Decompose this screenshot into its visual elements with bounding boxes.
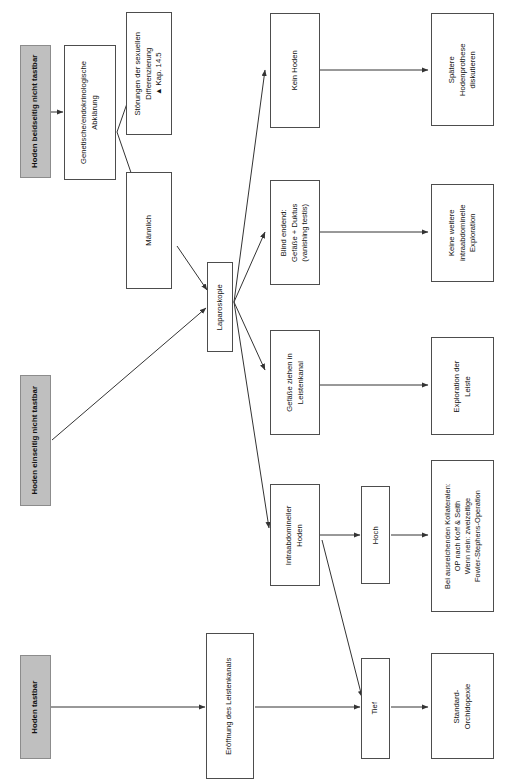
edge-n4-n5: [234, 70, 265, 302]
node-label: Bei ausreichenden Kollateralen: OP nach …: [443, 483, 483, 589]
node-genetische-endokrinologische-abklaerung[interactable]: Genetische/endokrinologische Abklärung: [64, 45, 116, 180]
node-label: Störungen der sexuellen Differenzierung …: [133, 32, 165, 115]
node-gefaesse-ziehen-in-leistenkanal[interactable]: Gefäße ziehen in Leistenkanal: [270, 330, 320, 435]
node-label: Kein Hoden: [290, 50, 301, 90]
entry-node-hoden-tastbar[interactable]: Hoden tastbar: [20, 655, 51, 759]
node-exploration-der-leiste[interactable]: Exploration der Leiste: [431, 337, 494, 435]
edge-e2-n4: [52, 308, 206, 440]
node-maennlich[interactable]: Männlich: [126, 172, 172, 289]
node-label: Männlich: [144, 215, 155, 246]
node-keine-weitere-intraabdominelle-exploration[interactable]: Keine weitere intraabdominelle Explorati…: [431, 184, 494, 282]
node-label: Exploration der Leiste: [452, 360, 473, 412]
node-laparoskopie[interactable]: Laparoskopie: [207, 262, 233, 352]
node-label: Blind endend: Gefäße + Duktus (vanishing…: [279, 203, 311, 261]
node-koff-seith-fowler-stephens[interactable]: Bei ausreichenden Kollateralen: OP nach …: [431, 460, 494, 612]
entry-node-hoden-beidseitig-nicht-tastbar[interactable]: Hoden beidseitig nicht tastbar: [20, 45, 51, 178]
node-eroeffnung-des-leistenkanals[interactable]: Eröffnung des Leistenkanals: [206, 633, 254, 779]
edge-n4-n7: [234, 302, 265, 370]
entry-node-label: Hoden einseitig nicht tastbar: [30, 386, 41, 494]
edge-n3-n4: [177, 246, 207, 290]
node-label: Standard- Orchidopexie: [452, 683, 473, 728]
entry-node-label: Hoden beidseitig nicht tastbar: [30, 55, 41, 168]
node-spaetere-hodenprothese-diskutieren[interactable]: Spätere Hodenprothese diskutieren: [431, 13, 494, 126]
edge-n4-n6: [234, 232, 265, 302]
node-label: Keine weitere intraabdominelle Explorati…: [447, 205, 479, 262]
node-standard-orchidopexie[interactable]: Standard- Orchidopexie: [431, 653, 494, 759]
node-stoerungen-der-sexuellen-differenzierung[interactable]: Störungen der sexuellen Differenzierung …: [126, 12, 172, 135]
flowchart-canvas: Hoden beidseitig nicht tastbar Hoden ein…: [0, 0, 511, 779]
entry-node-hoden-einseitig-nicht-tastbar[interactable]: Hoden einseitig nicht tastbar: [20, 375, 51, 506]
node-label: Tief: [370, 702, 381, 715]
node-label: Intraabdomineller Hoden: [285, 505, 306, 565]
node-label: Genetische/endokrinologische Abklärung: [80, 61, 101, 164]
node-label: Spätere Hodenprothese diskutieren: [447, 43, 479, 96]
node-intraabdomineller-hoden[interactable]: Intraabdomineller Hoden: [270, 484, 320, 586]
node-tief[interactable]: Tief: [361, 658, 390, 759]
edge-n8-n10: [322, 540, 362, 697]
node-kein-hoden[interactable]: Kein Hoden: [270, 13, 320, 128]
node-label: Laparoskopie: [215, 284, 226, 330]
node-label: Eröffnung des Leistenkanals: [225, 657, 236, 754]
node-label: Gefäße ziehen in Leistenkanal: [285, 353, 306, 412]
node-hoch[interactable]: Hoch: [361, 486, 390, 584]
entry-node-label: Hoden tastbar: [30, 680, 41, 733]
node-label: Hoch: [370, 526, 381, 544]
node-blind-endend-vanishing-testis[interactable]: Blind endend: Gefäße + Duktus (vanishing…: [270, 180, 320, 285]
edge-n4-n8: [234, 302, 269, 528]
